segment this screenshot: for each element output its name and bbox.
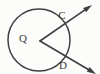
geometry-figure: Q C D <box>0 0 100 74</box>
label-point-d: D <box>59 59 67 71</box>
label-point-c: C <box>58 9 65 21</box>
figure-canvas: Q C D <box>0 0 100 74</box>
arrowhead-lower-icon <box>87 67 96 74</box>
arrowhead-upper-icon <box>83 5 92 12</box>
label-center-q: Q <box>19 32 27 44</box>
